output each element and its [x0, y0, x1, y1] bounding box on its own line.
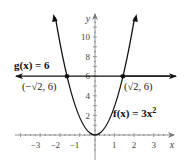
- y-tick-label: 8: [86, 52, 91, 62]
- point-label-left: (−√2, 6): [22, 81, 57, 93]
- f-label-main: f(x) = 3x: [113, 107, 153, 120]
- y-tick-label: 10: [81, 32, 91, 42]
- f-label: f(x) = 3x2: [113, 106, 156, 120]
- x-tick-label: 2: [132, 140, 137, 150]
- g-label: g(x) = 6: [14, 59, 50, 72]
- intersection-point-right: [121, 74, 126, 79]
- x-tick-label: −2: [50, 140, 60, 150]
- arrow-right-curve: [132, 14, 137, 22]
- arrow-left-curve: [52, 14, 57, 22]
- x-axis-label: x: [169, 139, 175, 150]
- y-axis-label: y: [85, 13, 91, 24]
- y-tick-label: 4: [86, 91, 91, 101]
- y-axis: 2 4 6 8 10 y: [81, 13, 97, 160]
- f-label-exp: 2: [152, 106, 156, 115]
- point-label-right: (√2, 6): [124, 81, 153, 93]
- chart: −3 −2 −1 1 2 3 x 2 4 6 8 10 y: [0, 0, 190, 163]
- x-tick-label: 1: [112, 140, 117, 150]
- intersection-point-left: [65, 74, 70, 79]
- x-tick-label: 3: [152, 140, 157, 150]
- y-tick-label: 2: [86, 111, 91, 121]
- x-tick-label: −3: [31, 140, 41, 150]
- x-tick-label: −1: [70, 140, 80, 150]
